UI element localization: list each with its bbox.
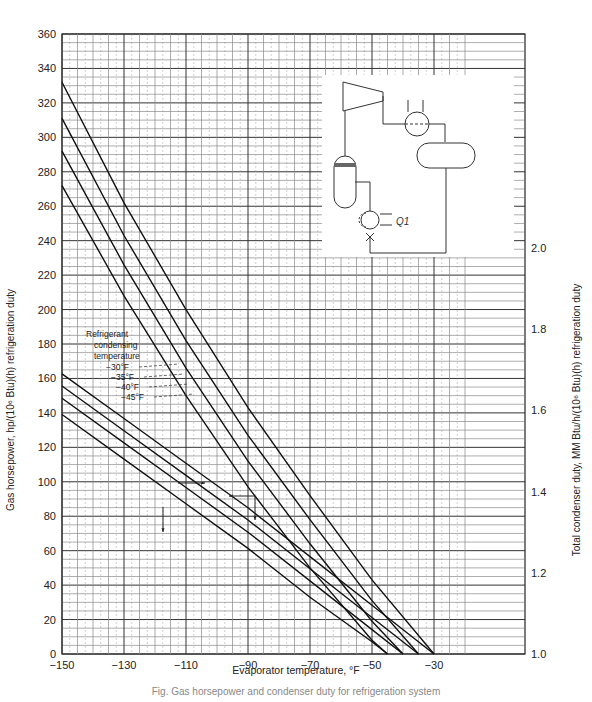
legend-title: temperature: [94, 351, 140, 361]
legend-entry: −35°F: [111, 372, 134, 382]
y-tick-label: 80: [44, 510, 56, 522]
y-tick-label: 220: [38, 269, 56, 281]
figure-caption: Fig. Gas horsepower and condenser duty f…: [0, 686, 592, 697]
y-tick-label: 320: [38, 97, 56, 109]
q1-label: Q1: [396, 216, 409, 227]
y-tick-label: 200: [38, 304, 56, 316]
y-tick-label: 100: [38, 476, 56, 488]
y-tick-label: 40: [44, 579, 56, 591]
y-tick-label: 120: [38, 441, 56, 453]
y2-axis-label: Total condenser duty, MM Btu/h/(10⁶ Btu)…: [571, 284, 582, 556]
y2-tick-label: 1.2: [531, 567, 546, 579]
y-tick-label: 20: [44, 614, 56, 626]
process-schematic-inset: Q1: [322, 75, 514, 257]
legend-title: condensing: [94, 340, 138, 350]
y2-tick-label: 2.0: [531, 242, 546, 254]
legend-entry: −45°F: [121, 392, 144, 402]
x-axis-label: Evaporator temperature, °F: [0, 664, 592, 676]
legend-entry: −40°F: [116, 382, 139, 392]
y-tick-label: 140: [38, 407, 56, 419]
y-tick-label: 160: [38, 372, 56, 384]
chart-figure: Q1 Refrigerantcondensingtemperature−30°F…: [0, 0, 592, 702]
y-tick-label: 260: [38, 200, 56, 212]
y2-tick-label: 1.6: [531, 404, 546, 416]
y-tick-label: 340: [38, 62, 56, 74]
y-axis-label: Gas horsepower, hp/(10⁶ Btu)(h) refriger…: [5, 289, 16, 511]
y-tick-label: 300: [38, 131, 56, 143]
y-tick-label: 240: [38, 235, 56, 247]
y-tick-label: 60: [44, 545, 56, 557]
legend-entry: −30°F: [106, 362, 129, 372]
y-tick-label: 180: [38, 338, 56, 350]
y2-tick-label: 1.0: [531, 648, 546, 660]
y-tick-label: 280: [38, 166, 56, 178]
legend-title: Refrigerant: [86, 329, 129, 339]
y-tick-label: 360: [38, 28, 56, 40]
y2-tick-label: 1.8: [531, 323, 546, 335]
y2-tick-label: 1.4: [531, 486, 546, 498]
